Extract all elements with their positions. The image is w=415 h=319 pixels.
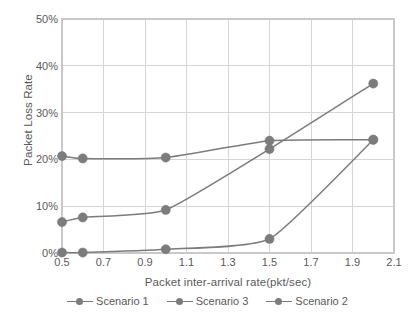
legend-label: Scenario 2 [295, 295, 348, 307]
packet-loss-rate-chart: Packet Loss Rate 0%10%20%30%40%50% 0.50.… [0, 0, 415, 319]
chart-legend: Scenario 1Scenario 3Scenario 2 [0, 295, 415, 307]
legend-marker-icon [266, 296, 292, 306]
legend-dot [176, 298, 183, 305]
x-tick-label: 1.5 [250, 256, 290, 268]
x-tick-label: 0.7 [84, 256, 124, 268]
legend-dot [76, 298, 83, 305]
x-axis-title: Packet inter-arrival rate(pkt/sec) [62, 276, 394, 288]
x-axis-tick-labels: 0.50.70.91.11.31.51.71.92.1 [0, 0, 415, 319]
legend-label: Scenario 1 [96, 295, 149, 307]
x-tick-label: 2.1 [374, 256, 414, 268]
legend-marker-icon [67, 296, 93, 306]
legend-marker-icon [167, 296, 193, 306]
legend-item-scenario-3[interactable]: Scenario 3 [167, 295, 249, 307]
x-tick-label: 1.3 [208, 256, 248, 268]
x-tick-label: 0.5 [42, 256, 82, 268]
legend-label: Scenario 3 [196, 295, 249, 307]
legend-dot [275, 298, 282, 305]
x-tick-label: 1.1 [167, 256, 207, 268]
x-tick-label: 0.9 [125, 256, 165, 268]
x-tick-label: 1.9 [333, 256, 373, 268]
legend-item-scenario-1[interactable]: Scenario 1 [67, 295, 149, 307]
x-tick-label: 1.7 [291, 256, 331, 268]
legend-item-scenario-2[interactable]: Scenario 2 [266, 295, 348, 307]
